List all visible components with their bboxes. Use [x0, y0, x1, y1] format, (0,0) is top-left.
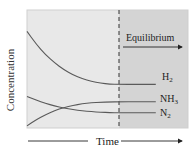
concentration-time-chart: Equilibrium H2 NH3 N2 Time — [0, 0, 192, 156]
x-axis-label: Time — [96, 135, 119, 147]
equilibrium-region — [119, 10, 188, 128]
equilibrium-label: Equilibrium — [126, 32, 175, 43]
plot-area — [27, 10, 119, 128]
